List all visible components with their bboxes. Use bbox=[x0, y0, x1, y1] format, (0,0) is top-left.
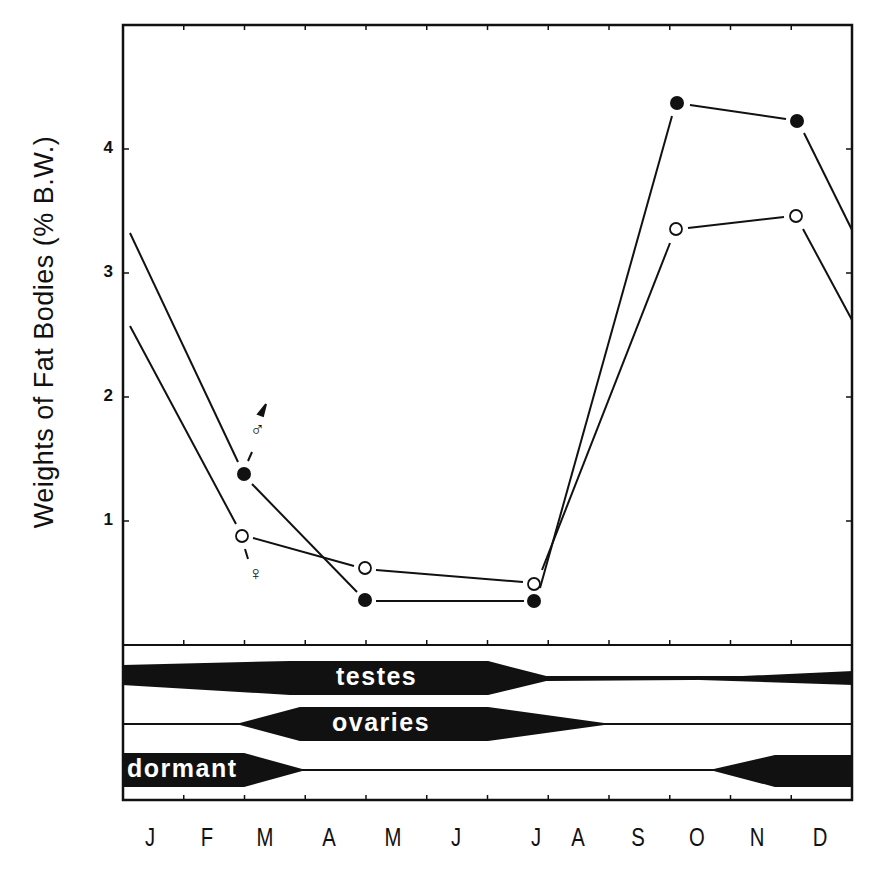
y-axis-ticks bbox=[123, 149, 852, 521]
month-label: D bbox=[808, 822, 831, 853]
male-label: ♂ bbox=[250, 418, 265, 441]
month-label: A bbox=[317, 822, 340, 853]
testes-label: testes bbox=[336, 662, 417, 691]
y-tick-4: 4 bbox=[93, 138, 113, 158]
y-tick-2: 2 bbox=[93, 386, 113, 406]
month-label: F bbox=[195, 822, 218, 853]
month-label: M bbox=[253, 822, 276, 853]
male-series bbox=[130, 105, 852, 601]
month-label: A bbox=[566, 822, 589, 853]
month-label: J bbox=[138, 822, 161, 853]
month-label: S bbox=[626, 822, 649, 853]
male-markers bbox=[237, 96, 804, 608]
female-label: ♀ bbox=[248, 562, 263, 585]
month-label: M bbox=[381, 822, 404, 853]
y-tick-1: 1 bbox=[93, 510, 113, 530]
dormant-label: dormant bbox=[127, 754, 238, 783]
female-markers bbox=[236, 210, 802, 590]
ovaries-label: ovaries bbox=[332, 708, 430, 737]
month-label: J bbox=[524, 822, 547, 853]
month-label: J bbox=[444, 822, 467, 853]
y-axis-label: Weights of Fat Bodies (% B.W.) bbox=[29, 136, 60, 529]
female-series bbox=[130, 217, 852, 582]
y-tick-3: 3 bbox=[93, 262, 113, 282]
month-label: O bbox=[685, 822, 708, 853]
dormant-band-end bbox=[714, 756, 852, 786]
fat-body-chart bbox=[0, 0, 880, 869]
month-label: N bbox=[745, 822, 768, 853]
